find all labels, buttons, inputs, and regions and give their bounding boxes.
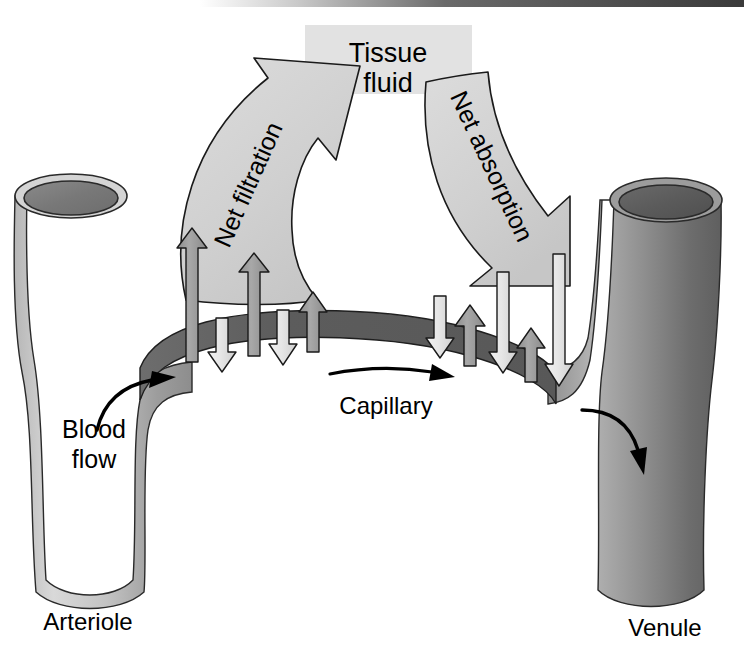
capillary-label: Capillary [339,392,432,419]
venule-label: Venule [628,614,701,641]
capillary-flow-arrow [330,364,455,381]
tissue-fluid-label-line1: Tissue [349,38,428,68]
capillary-exchange-figure: Tissue fluid Net filtration Net absorpti… [0,0,744,646]
arteriole-lumen [24,181,118,215]
diagram-canvas: Tissue fluid Net filtration Net absorpti… [0,0,744,646]
blood-flow-label-line2: flow [72,445,117,473]
arteriole-label: Arteriole [43,608,132,635]
net-absorption-arrow: Net absorption [425,72,570,286]
scan-edge-artifact [200,0,744,7]
pressure-arrow-down-4 [489,272,517,373]
tissue-fluid-label-line2: fluid [363,68,413,98]
venule-vessel [548,178,722,607]
arteriole-vessel [14,174,192,609]
net-filtration-arrow: Net filtration [181,58,360,305]
capillary-vessel: Capillary [140,311,556,419]
blood-flow-label-line1: Blood [62,415,126,443]
venule-lumen [619,185,713,219]
